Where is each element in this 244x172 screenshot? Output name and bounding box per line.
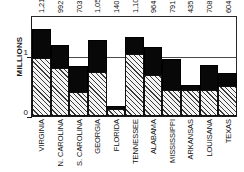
bar-value-label: 708,002 bbox=[205, 0, 214, 13]
bar-segment-lower bbox=[69, 92, 88, 116]
x-axis-label-cell: FLORIDA bbox=[107, 117, 126, 172]
bar-series-group: 1,219,630992,622703,7081,057,286140,4241… bbox=[32, 16, 237, 116]
x-axis-label-cell: S. CAROLINA bbox=[69, 117, 88, 172]
y-tick-label-0: 0 bbox=[16, 108, 28, 117]
bar-value-label: 604,215 bbox=[223, 0, 232, 13]
x-axis-category-label: FLORIDA bbox=[111, 119, 120, 151]
bar-value-label: 992,622 bbox=[55, 0, 64, 13]
x-axis-category-label: TEXAS bbox=[223, 119, 232, 143]
x-axis-category-label: S. CAROLINA bbox=[74, 119, 83, 166]
bar-segment-upper bbox=[69, 66, 88, 93]
bar-segment-upper bbox=[218, 73, 237, 86]
x-axis-label-cell: ARKANSAS bbox=[181, 117, 200, 172]
bar-segment-lower bbox=[32, 58, 51, 116]
bar-column: 791,305 bbox=[162, 16, 181, 116]
bar-column: 435,450 bbox=[181, 16, 200, 116]
bar-value-label: 1,057,286 bbox=[93, 0, 102, 13]
bar-value-label: 703,708 bbox=[74, 0, 83, 13]
bar-column: 140,424 bbox=[107, 16, 126, 116]
x-axis-label-cell: GEORGIA bbox=[88, 117, 107, 172]
bar-column: 1,109,801 bbox=[125, 16, 144, 116]
x-axis-label-cell: TENNESSEE bbox=[125, 117, 144, 172]
bar-value-label: 1,109,801 bbox=[130, 0, 139, 13]
bar-column: 1,057,286 bbox=[88, 16, 107, 116]
bar-segment-lower bbox=[181, 90, 200, 116]
bar-segment-upper bbox=[125, 37, 144, 54]
y-tick-label-1: 1 bbox=[16, 48, 28, 57]
bar-segment-lower bbox=[200, 90, 219, 116]
bar-segment-lower bbox=[88, 72, 107, 116]
x-axis-label-cell: MISSISSIPPI bbox=[162, 117, 181, 172]
bar-segment-lower bbox=[162, 90, 181, 116]
x-axis-category-label: MISSISSIPPI bbox=[167, 119, 176, 163]
x-axis-category-label: N. CAROLINA bbox=[55, 119, 64, 166]
bar-column: 604,215 bbox=[218, 16, 237, 116]
bar-column: 964,201 bbox=[144, 16, 163, 116]
bar-segment-upper bbox=[32, 29, 51, 58]
x-axis-labels-group: VIRGINIAN. CAROLINAS. CAROLINAGEORGIAFLO… bbox=[32, 117, 237, 172]
x-axis-label-cell: VIRGINIA bbox=[32, 117, 51, 172]
bar-value-label: 435,450 bbox=[186, 0, 195, 13]
bar-segment-lower bbox=[125, 54, 144, 116]
bar-segment-lower bbox=[218, 86, 237, 116]
x-axis-category-label: GEORGIA bbox=[93, 119, 102, 154]
x-axis-category-label: ALABAMA bbox=[149, 119, 158, 154]
x-axis-label-cell: TEXAS bbox=[218, 117, 237, 172]
bar-segment-upper bbox=[88, 40, 107, 72]
bar-column: 703,708 bbox=[69, 16, 88, 116]
bar-column: 992,622 bbox=[51, 16, 70, 116]
bar-segment-lower bbox=[107, 109, 126, 116]
bar-value-label: 964,201 bbox=[149, 0, 158, 13]
bar-segment-lower bbox=[144, 75, 163, 116]
bar-segment-upper bbox=[144, 47, 163, 75]
bar-value-label: 791,305 bbox=[167, 0, 176, 13]
x-axis-label-cell: ALABAMA bbox=[144, 117, 163, 172]
x-axis-category-label: LOUISANA bbox=[205, 119, 214, 157]
bar-segment-lower bbox=[51, 68, 70, 116]
x-axis-category-label: TENNESSEE bbox=[130, 119, 139, 164]
bar-segment-upper bbox=[200, 65, 219, 90]
bar-column: 1,219,630 bbox=[32, 16, 51, 116]
bar-column: 708,002 bbox=[200, 16, 219, 116]
x-axis-category-label: ARKANSAS bbox=[186, 119, 195, 159]
x-axis-label-cell: N. CAROLINA bbox=[51, 117, 70, 172]
bar-value-label: 1,219,630 bbox=[37, 0, 46, 13]
bar-segment-upper bbox=[162, 59, 181, 90]
x-axis-category-label: VIRGINIA bbox=[37, 119, 46, 152]
bar-segment-upper bbox=[51, 45, 70, 68]
x-axis-label-cell: LOUISANA bbox=[200, 117, 219, 172]
bar-value-label: 140,424 bbox=[111, 0, 120, 13]
bar-chart: MILLIONS 1 0 1,219,630992,622703,7081,05… bbox=[0, 0, 244, 172]
